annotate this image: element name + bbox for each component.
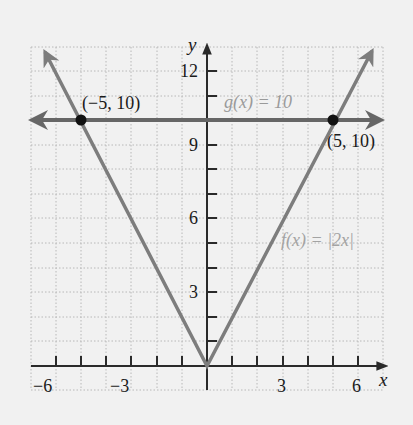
f-function-label: f(x) = |2x| <box>281 230 354 251</box>
graph-canvas: y x −6 −3 3 6 3 6 9 12 (−5, 10) (5, 10) … <box>0 0 413 425</box>
point-right <box>328 115 339 126</box>
xtick-label-3: 3 <box>277 376 286 396</box>
point-left-label: (−5, 10) <box>82 93 140 114</box>
xtick-label-6: 6 <box>352 376 361 396</box>
point-left <box>76 115 87 126</box>
ytick-label-3: 3 <box>189 282 198 302</box>
y-axis-label: y <box>186 34 197 55</box>
y-ticks <box>207 71 217 341</box>
ytick-label-12: 12 <box>180 61 198 81</box>
xtick-label-m6: −6 <box>33 376 52 396</box>
x-axis-label: x <box>378 369 388 390</box>
ytick-label-6: 6 <box>189 208 198 228</box>
point-right-label: (5, 10) <box>327 131 375 152</box>
ytick-label-9: 9 <box>189 135 198 155</box>
xtick-label-m3: −3 <box>110 376 129 396</box>
g-function-label: g(x) = 10 <box>224 92 292 113</box>
